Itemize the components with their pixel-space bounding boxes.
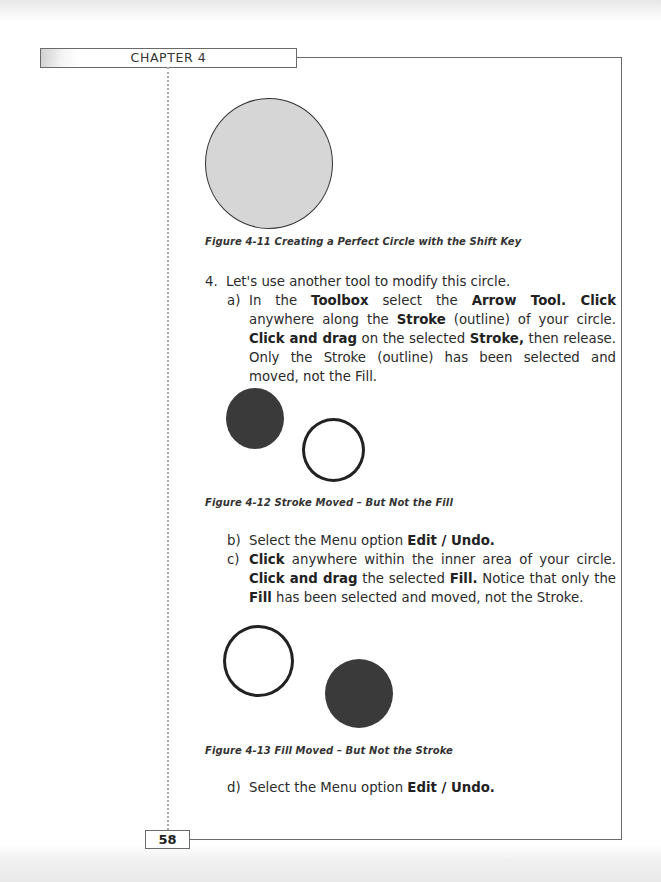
figure-4-11-caption: Figure 4-11 Creating a Perfect Circle wi… (205, 236, 521, 247)
step-4-text: Let's use another tool to modify this ci… (226, 272, 616, 291)
frame-right-rule (621, 57, 622, 839)
step-d-text: Select the Menu option Edit / Undo. (249, 778, 616, 797)
chapter-header: CHAPTER 4 (40, 48, 297, 68)
step-b-marker: b) (227, 531, 241, 550)
step-c-text: Click anywhere within the inner area of … (249, 550, 616, 607)
step-c-marker: c) (227, 550, 240, 569)
scan-bottom-shadow (0, 845, 661, 882)
figure-4-12-fill-circle (226, 388, 284, 449)
step-a-marker: a) (227, 291, 240, 310)
step-b-text: Select the Menu option Edit / Undo. (249, 531, 616, 550)
figure-4-12-caption: Figure 4-12 Stroke Moved – But Not the F… (205, 497, 453, 508)
figure-4-11-circle (205, 98, 333, 229)
step-d-marker: d) (227, 778, 241, 797)
scan-top-shadow (0, 0, 661, 22)
page-number: 58 (145, 830, 190, 849)
frame-top-rule (296, 57, 622, 58)
margin-dotted-rule (167, 67, 169, 830)
frame-bottom-rule (189, 839, 622, 840)
step-a-text: In the Toolbox select the Arrow Tool. Cl… (249, 291, 616, 386)
figure-4-13-stroke-ring (223, 625, 294, 697)
figure-4-13-caption: Figure 4-13 Fill Moved – But Not the Str… (205, 745, 453, 756)
figure-4-12-stroke-ring (302, 418, 365, 482)
figure-4-13-fill-circle (325, 659, 393, 728)
step-4-marker: 4. (205, 272, 218, 291)
